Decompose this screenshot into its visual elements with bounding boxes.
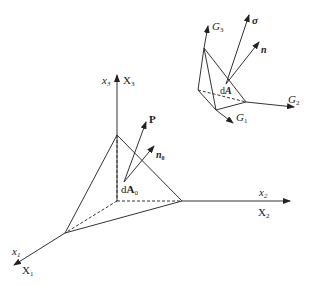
axis-G2 — [246, 102, 294, 107]
edge-G-bottom-right — [216, 102, 246, 110]
label-sigma: σ — [252, 14, 259, 26]
label-dA0: dA0 — [121, 183, 138, 197]
vector-P — [124, 122, 146, 182]
label-P: P — [149, 113, 156, 125]
label-G1: G1 — [236, 111, 248, 125]
label-G3: G3 — [212, 20, 224, 34]
label-x2: x2 — [258, 186, 268, 200]
label-n: n — [261, 44, 267, 55]
label-X3: X3 — [123, 74, 135, 88]
axis-G1 — [216, 110, 233, 123]
vector-sigma — [226, 15, 249, 84]
edge-left-right — [65, 201, 182, 233]
label-x1: x1 — [11, 245, 20, 259]
label-n0: n0 — [156, 149, 165, 161]
edge-origin-left-hidden — [65, 201, 117, 233]
edge-G-left-bottom — [198, 90, 216, 110]
label-dA: dA — [220, 85, 232, 96]
vector-n — [226, 42, 259, 84]
label-x3: x3 — [101, 74, 111, 88]
vector-n0 — [124, 146, 154, 182]
edge-G-apex-bottom — [204, 48, 216, 110]
edge-apex-left — [65, 135, 117, 233]
axis-x1 — [14, 233, 65, 265]
edge-G-apex-left — [198, 48, 204, 90]
axis-G3 — [204, 26, 208, 48]
label-X1: X1 — [22, 264, 34, 278]
label-G2: G2 — [288, 93, 300, 107]
label-X2: X2 — [258, 206, 270, 220]
tetrahedron-diagram: x3 X3 x2 X2 x1 X1 P n0 dA0 G3 G2 G1 σ n … — [0, 0, 312, 286]
